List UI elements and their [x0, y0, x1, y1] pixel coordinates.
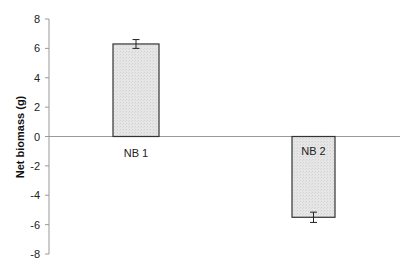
- y-tick-label: 2: [34, 101, 40, 113]
- category-label: NB 1: [124, 147, 148, 159]
- y-tick-label: 0: [34, 131, 40, 143]
- y-tick-label: 6: [34, 42, 40, 54]
- y-tick-label: -4: [30, 189, 40, 201]
- y-axis: 86420-2-4-6-8: [30, 13, 49, 260]
- y-tick-label: -6: [30, 219, 40, 231]
- y-tick-label: 8: [34, 13, 40, 25]
- bar-chart: 86420-2-4-6-8 NB 1NB 2 Net biomass (g): [0, 0, 414, 274]
- y-tick-label: -2: [30, 160, 40, 172]
- y-tick-label: 4: [34, 72, 40, 84]
- bar-nb-1: [113, 40, 159, 137]
- bars: [113, 40, 335, 223]
- category-label: NB 2: [301, 145, 325, 157]
- y-tick-label: -8: [30, 248, 40, 260]
- y-axis-label: Net biomass (g): [14, 95, 26, 178]
